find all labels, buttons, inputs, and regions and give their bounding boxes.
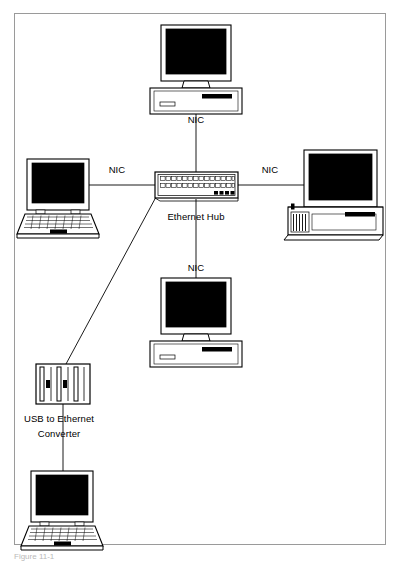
laptop-left: [17, 159, 99, 238]
desktop-bottom: [150, 278, 242, 367]
hub-port-row-bottom: [161, 184, 235, 188]
nic-label-right: NIC: [262, 164, 279, 175]
usb-converter-label-line1: USB to Ethernet: [24, 413, 94, 424]
network-diagram: [0, 0, 401, 566]
figure-caption: Figure 11-1: [14, 552, 54, 561]
ethernet-hub: [155, 172, 238, 201]
nic-label-bottom: NIC: [188, 262, 205, 273]
usb-converter-label-line2: Converter: [38, 428, 81, 439]
desktop-right: [284, 150, 383, 240]
figure-page: NIC NIC NIC NIC Ethernet Hub USB to Ethe…: [0, 0, 401, 566]
hub-port-row-top: [161, 177, 235, 181]
ethernet-hub-label: Ethernet Hub: [167, 211, 224, 222]
nic-label-top: NIC: [188, 114, 205, 125]
laptop-bottom: [21, 471, 103, 550]
desktop-top: [150, 25, 242, 114]
nic-label-left: NIC: [109, 164, 126, 175]
usb-to-ethernet-converter: [36, 364, 90, 404]
